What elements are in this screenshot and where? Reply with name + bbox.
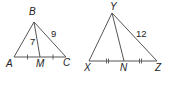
diagram-canvas: B A M C 7 9 Y X N Z 12: [0, 0, 174, 86]
label-m: M: [36, 58, 45, 69]
label-n: N: [120, 62, 128, 73]
length-bm: 7: [30, 36, 35, 47]
label-b: B: [29, 6, 36, 17]
length-bc: 9: [51, 28, 56, 39]
length-yz: 12: [136, 28, 147, 39]
label-z: Z: [154, 62, 162, 73]
triangle-abc-outline: [14, 22, 66, 57]
triangle-xyz: Y X N Z 12: [83, 1, 162, 73]
triangle-xyz-outline: [89, 13, 157, 61]
label-c: C: [63, 57, 71, 68]
label-a: A: [5, 58, 13, 69]
triangle-abc: B A M C 7 9: [5, 6, 71, 69]
label-y: Y: [110, 1, 118, 12]
segment-yn: [112, 13, 124, 61]
label-x: X: [83, 62, 91, 73]
